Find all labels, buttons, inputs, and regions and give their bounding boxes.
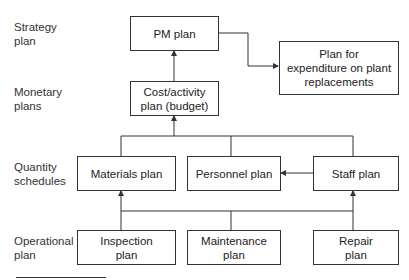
node-label: Materials plan xyxy=(91,167,163,181)
level-label-line: plans xyxy=(14,99,62,113)
node-plant-replacement-plan: Plan for expenditure on plant replacemen… xyxy=(279,41,399,95)
level-label-line: Quantity xyxy=(14,160,66,174)
node-label: Inspection xyxy=(100,234,152,248)
level-label-line: schedules xyxy=(14,174,66,188)
level-label-line: Operational xyxy=(14,234,73,248)
node-repair-plan: Repair plan xyxy=(313,230,399,265)
level-label-line: plan xyxy=(14,248,73,262)
node-label: plan xyxy=(100,248,152,262)
node-pm-plan: PM plan xyxy=(130,16,219,51)
level-label-monetary: Monetary plans xyxy=(14,85,62,113)
node-label: plan xyxy=(201,248,267,262)
node-label: Personnel plan xyxy=(196,167,273,181)
node-materials-plan: Materials plan xyxy=(77,156,176,191)
node-label: Cost/activity xyxy=(141,85,209,99)
node-label: plan (budget) xyxy=(141,99,209,113)
node-label: Plan for xyxy=(287,47,391,61)
node-label: Maintenance xyxy=(201,234,267,248)
level-label-line: Strategy xyxy=(14,20,57,34)
node-personnel-plan: Personnel plan xyxy=(187,156,281,191)
level-label-quantity: Quantity schedules xyxy=(14,160,66,188)
level-label-line: plan xyxy=(14,34,57,48)
node-maintenance-plan: Maintenance plan xyxy=(187,230,281,265)
level-label-operational: Operational plan xyxy=(14,234,73,262)
node-label: plan xyxy=(339,248,373,262)
node-cost-activity-plan: Cost/activity plan (budget) xyxy=(130,81,219,116)
node-label: Repair xyxy=(339,234,373,248)
node-staff-plan: Staff plan xyxy=(313,156,399,191)
level-label-line: Monetary xyxy=(14,85,62,99)
footnote-rule xyxy=(16,277,106,278)
node-label: replacements xyxy=(287,75,391,89)
node-label: expenditure on plant xyxy=(287,61,391,75)
level-label-strategy: Strategy plan xyxy=(14,20,57,48)
node-label: Staff plan xyxy=(332,167,380,181)
node-label: PM plan xyxy=(153,27,195,41)
node-inspection-plan: Inspection plan xyxy=(77,230,176,265)
